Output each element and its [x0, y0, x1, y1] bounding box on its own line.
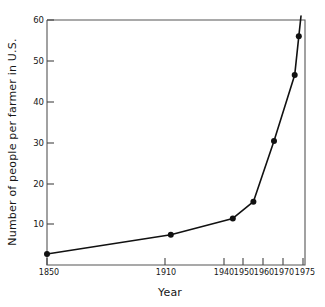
data-point-1972 [296, 33, 302, 39]
x-tick-label-1850: 1850 [39, 268, 59, 277]
x-tick-labels: 1850 1910 1940 1950 1960 1970 1975 [39, 268, 315, 277]
x-tick-label-1950: 1950 [234, 268, 254, 277]
y-tick-label-60: 60 [33, 15, 44, 25]
x-tick-label-1940: 1940 [214, 268, 234, 277]
x-axis-ticks [47, 258, 303, 265]
x-tick-label-1975: 1975 [295, 268, 315, 277]
x-tick-label-1910: 1910 [156, 268, 176, 277]
series-line-people-per-farmer [47, 16, 301, 254]
y-tick-label-30: 30 [33, 138, 44, 148]
y-axis-ticks [47, 20, 54, 224]
chart-container: 60 50 40 30 20 10 1850 1910 1940 1950 19… [0, 0, 325, 307]
y-tick-label-20: 20 [33, 179, 44, 189]
series-markers [44, 33, 302, 257]
data-point-1970 [292, 72, 298, 78]
data-point-1910 [168, 232, 174, 238]
y-tick-label-50: 50 [33, 56, 44, 66]
data-point-1940 [230, 215, 236, 221]
data-series-group [44, 16, 302, 257]
y-tick-labels: 60 50 40 30 20 10 [33, 15, 44, 229]
y-axis-title: Number of people per farmer in U.S. [6, 38, 19, 245]
x-axis-title: Year [157, 286, 182, 299]
plot-frame [47, 20, 305, 265]
y-tick-label-40: 40 [33, 97, 44, 107]
y-tick-label-10: 10 [33, 219, 44, 229]
x-tick-label-1970: 1970 [274, 268, 294, 277]
data-point-1960 [271, 138, 277, 144]
x-tick-label-1960: 1960 [254, 268, 274, 277]
line-chart: 60 50 40 30 20 10 1850 1910 1940 1950 19… [0, 0, 325, 307]
data-point-1850 [44, 251, 50, 257]
axis-frame-lines [47, 20, 305, 265]
data-point-1950 [250, 199, 256, 205]
